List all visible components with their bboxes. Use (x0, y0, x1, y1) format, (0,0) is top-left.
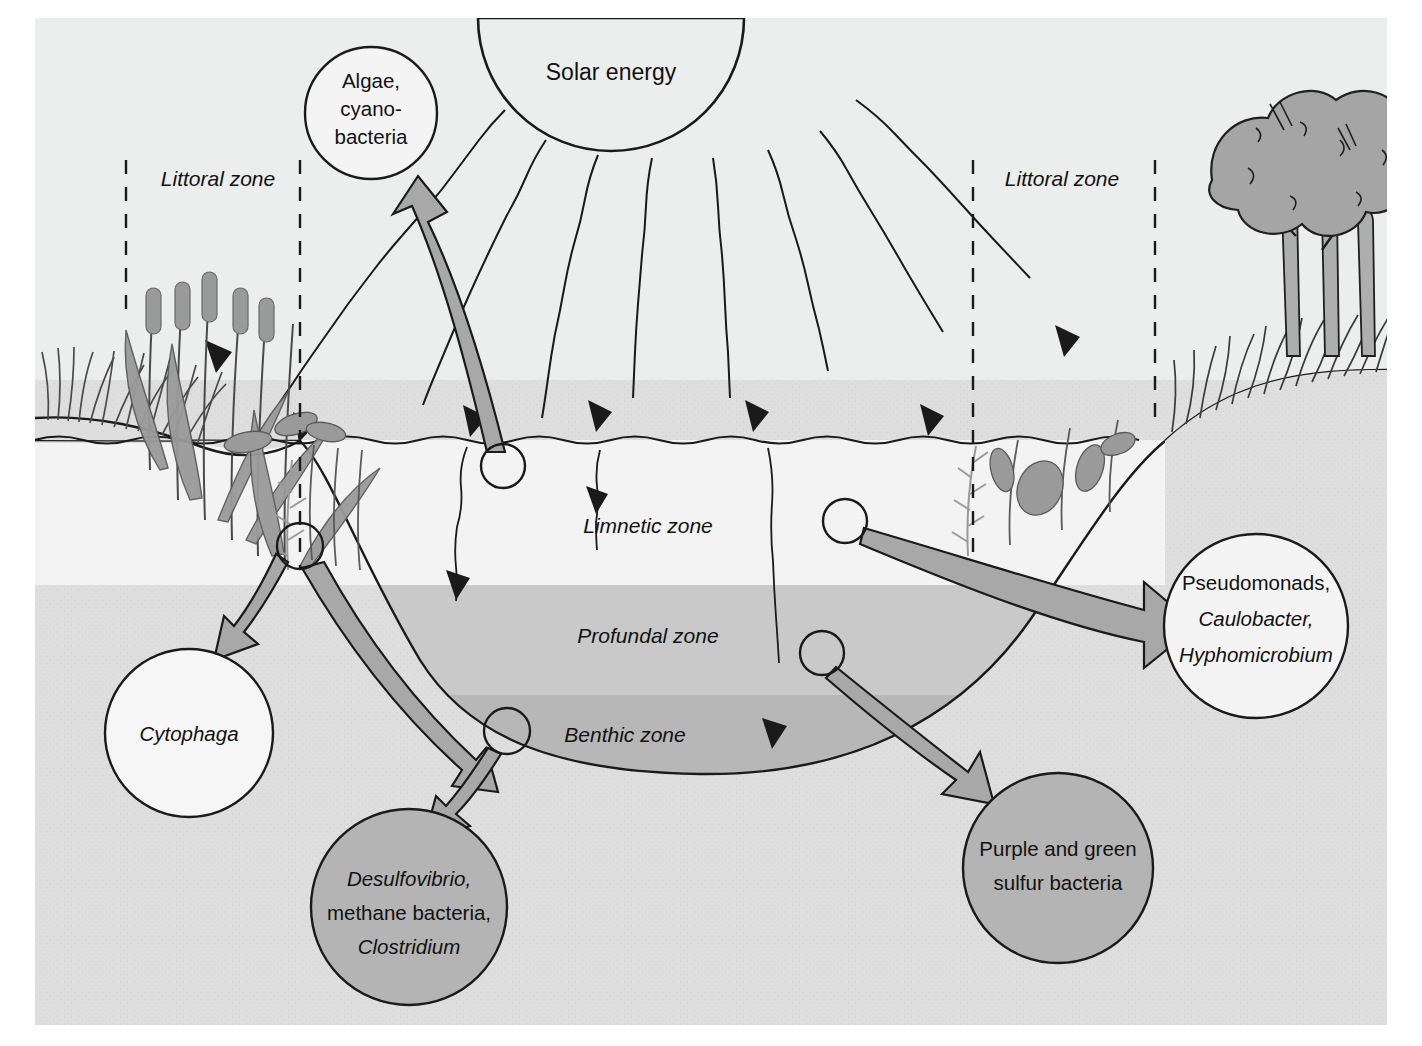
bubble-line: sulfur bacteria (994, 871, 1123, 894)
zone-label-profundal: Profundal zone (577, 624, 718, 647)
lake-ecosystem-diagram: Littoral zone Littoral zone Limnetic zon… (0, 0, 1422, 1046)
cattail-head (233, 288, 248, 334)
bubble-circle (963, 773, 1153, 963)
zone-label-benthic: Benthic zone (564, 723, 685, 746)
bubble-pseudomonads-caulobacter-hyphomicrobium: Pseudomonads, Caulobacter, Hyphomicrobiu… (1164, 534, 1348, 718)
bubble-line: cyano- (340, 97, 402, 120)
bubble-purple-green-sulfur-bacteria: Purple and green sulfur bacteria (963, 773, 1153, 963)
cattail-head (259, 298, 274, 342)
sun-label: Solar energy (546, 59, 677, 85)
bubble-cytophaga: Cytophaga (105, 649, 273, 817)
bubble-line: Hyphomicrobium (1179, 643, 1333, 666)
bubble-line: Clostridium (358, 935, 461, 958)
bubble-line: Desulfovibrio, (347, 867, 471, 890)
cattail-head (146, 288, 161, 334)
cattail-head (175, 282, 190, 330)
figure-canvas: Littoral zone Littoral zone Limnetic zon… (0, 0, 1422, 1046)
bubble-line: Cytophaga (139, 722, 238, 745)
zone-label-littoral-left: Littoral zone (161, 167, 275, 190)
cattail-head (202, 272, 217, 322)
zone-label-limnetic: Limnetic zone (583, 514, 713, 537)
bubble-line: Algae, (342, 69, 400, 92)
bubble-line: Caulobacter, (1198, 607, 1313, 630)
bubble-line: Purple and green (979, 837, 1136, 860)
bubble-line: bacteria (335, 125, 409, 148)
bubble-algae-cyanobacteria: Algae, cyano- bacteria (305, 47, 437, 179)
bubble-line: Pseudomonads, (1182, 571, 1330, 594)
bubble-desulfovibrio-methane-clostridium: Desulfovibrio, methane bacteria, Clostri… (311, 809, 507, 1005)
bubble-line: methane bacteria, (327, 901, 491, 924)
zone-label-littoral-right: Littoral zone (1005, 167, 1119, 190)
